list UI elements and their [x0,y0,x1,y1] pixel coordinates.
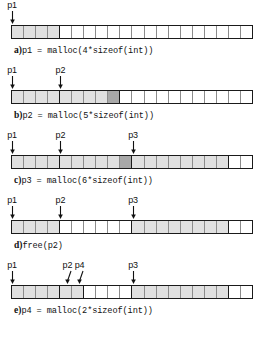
memory-cell [145,156,157,168]
caption-code: p4 = malloc(2*sizeof(int)) [21,306,153,316]
memory-cell [48,221,60,233]
memory-cell [205,91,217,103]
pointer-label: p2 [47,130,73,140]
malloc-free-diagram: p1a)p1 = malloc(4*sizeof(int))p1p2b)p2 =… [0,0,264,337]
memory-cell [145,91,157,103]
memory-cell [217,156,229,168]
pointer-marker-p1: p1 [0,260,25,270]
memory-cell [24,26,36,38]
memory-cell [157,26,169,38]
memory-grid [11,25,253,39]
pointer-label: p3 [120,130,146,140]
memory-cell [193,156,205,168]
memory-cell [169,91,181,103]
memory-cell [72,26,84,38]
memory-cell [72,91,84,103]
memory-cell [241,26,252,38]
pointer-label: p1 [0,260,25,270]
pointer-label-layer: p1p2 [0,65,264,91]
memory-cell [157,156,169,168]
memory-cell [217,91,229,103]
memory-cell [205,221,217,233]
memory-cell [157,286,169,298]
memory-cell [120,221,132,233]
memory-cell [193,91,205,103]
memory-cell [60,286,72,298]
memory-cell [241,91,252,103]
memory-cell [60,156,72,168]
memory-cell [36,221,48,233]
pointer-marker-p2: p2 [47,130,73,140]
memory-cell [24,221,36,233]
memory-cell [96,156,108,168]
pointer-label-layer: p1p2p4p3 [0,260,264,286]
memory-row: p1a)p1 = malloc(4*sizeof(int)) [0,0,264,65]
memory-row: p1p2b)p2 = malloc(5*sizeof(int)) [0,65,264,130]
memory-cell [84,286,96,298]
pointer-arrow-icon [75,271,84,285]
row-caption: e)p4 = malloc(2*sizeof(int)) [14,304,153,317]
pointer-arrow-icon [56,141,65,155]
memory-grid [11,220,253,234]
memory-cell [193,26,205,38]
memory-cell [205,286,217,298]
memory-row: p1p2p4p3e)p4 = malloc(2*sizeof(int)) [0,260,264,325]
memory-cell [108,156,120,168]
memory-cell [108,26,120,38]
memory-cell [169,221,181,233]
pointer-arrow-icon [129,206,138,220]
memory-cell [72,221,84,233]
memory-cell [48,26,60,38]
memory-cell [157,221,169,233]
memory-cell [48,286,60,298]
pointer-arrow-icon [56,76,65,90]
row-caption: c)p3 = malloc(6*sizeof(int)) [14,174,153,187]
pointer-label: p2 [47,65,73,75]
caption-code: p1 = malloc(4*sizeof(int)) [22,46,154,56]
row-caption: d)free(p2) [14,239,63,252]
memory-cell [108,221,120,233]
pointer-arrow-icon [8,11,17,25]
pointer-arrow-icon [63,271,72,285]
row-caption: a)p1 = malloc(4*sizeof(int)) [14,44,153,57]
memory-cell [36,26,48,38]
memory-cell [24,156,36,168]
pointer-marker-p1: p1 [0,195,25,205]
pointer-arrow-icon [129,141,138,155]
memory-cell [120,91,132,103]
pointer-label: p1 [0,130,25,140]
caption-code: p3 = malloc(6*sizeof(int)) [21,176,153,186]
memory-cell [12,26,24,38]
pointer-label: p2 [47,195,73,205]
memory-cell [181,91,193,103]
memory-cell [12,286,24,298]
memory-cell [132,26,144,38]
memory-cell [12,221,24,233]
memory-cell [181,286,193,298]
memory-cell [108,286,120,298]
memory-cell [60,91,72,103]
pointer-marker-p1: p1 [0,130,25,140]
pointer-label: p1 [0,65,25,75]
memory-cell [205,156,217,168]
memory-cell [36,91,48,103]
memory-cell [12,156,24,168]
memory-cell [145,26,157,38]
memory-cell [157,91,169,103]
pointer-label: p3 [120,260,146,270]
memory-cell [217,221,229,233]
pointer-label: p1 [0,195,25,205]
memory-cell [132,221,144,233]
memory-cell [241,221,252,233]
pointer-label-layer: p1p2p3 [0,195,264,221]
pointer-arrow-icon [8,141,17,155]
memory-cell [72,286,84,298]
memory-cell [36,156,48,168]
memory-cell [229,221,241,233]
memory-cell [181,156,193,168]
memory-cell [169,26,181,38]
pointer-label-layer: p1p2p3 [0,130,264,156]
memory-grid [11,155,253,169]
memory-cell [169,156,181,168]
memory-cell [84,26,96,38]
